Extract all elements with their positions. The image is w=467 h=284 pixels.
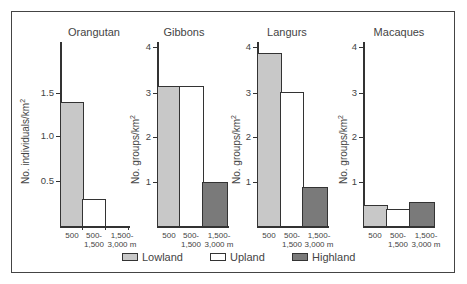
y-axis: [363, 42, 365, 228]
x-tick: [128, 226, 129, 230]
y-tick: [359, 47, 364, 48]
bar-lowland: [257, 53, 282, 227]
panel-title: Orangutan: [44, 26, 144, 38]
bar-upland: [179, 86, 204, 227]
y-tick: [56, 93, 61, 94]
bar-upland: [82, 199, 106, 227]
legend-label: Upland: [230, 251, 265, 263]
legend: Lowland Upland Highland: [120, 251, 360, 267]
y-tick-label: 4: [129, 41, 151, 52]
x-tick-label-line: 3,000 m: [104, 240, 140, 249]
y-tick-label: 1.5: [32, 87, 54, 98]
x-tick-label: 1,500-3,000 m: [408, 231, 444, 249]
y-tick-label: 3: [129, 87, 151, 98]
x-tick-label-line: 1,500-: [408, 231, 444, 240]
y-tick-label: 4: [229, 41, 251, 52]
bar-lowland: [157, 86, 181, 227]
y-axis-label-sup: 2: [337, 115, 344, 119]
y-tick-label: 3: [335, 87, 357, 98]
x-tick-label-line: 1,500-: [104, 231, 140, 240]
y-tick-label: 3: [229, 87, 251, 98]
y-tick: [253, 47, 258, 48]
bar-upland: [386, 209, 411, 227]
legend-item-upland: Upland: [210, 251, 265, 263]
x-tick-label: 1,500-3,000 m: [301, 231, 337, 249]
y-tick-label: 1: [229, 176, 251, 187]
y-axis-label: No. individuals/km2: [19, 99, 31, 184]
y-tick: [359, 182, 364, 183]
bar-lowland: [60, 102, 84, 227]
x-tick-label: 1,500-3,000 m: [201, 231, 237, 249]
y-axis-label-sup: 2: [129, 115, 136, 119]
panel-title: Gibbons: [134, 26, 234, 38]
legend-swatch-highland: [292, 253, 308, 261]
x-tick: [105, 226, 106, 230]
x-tick-label: 500: [364, 231, 386, 240]
bar-upland: [280, 92, 304, 227]
x-tick-label-line: 1,500-: [201, 231, 237, 240]
y-tick-label: 2: [229, 131, 251, 142]
y-axis-label-text: No. groups/km: [231, 119, 242, 184]
y-tick: [359, 93, 364, 94]
x-tick-label-line: 3,000 m: [408, 240, 444, 249]
y-axis-label-sup: 2: [19, 99, 26, 103]
y-tick-label: 1: [129, 176, 151, 187]
bar-highland: [409, 202, 435, 227]
y-axis-label-sup: 2: [230, 115, 237, 119]
y-tick-label: 0.5: [32, 175, 54, 186]
legend-swatch-upland: [210, 253, 226, 261]
bar-highland: [202, 182, 228, 227]
y-axis-label: No. groups/km2: [337, 115, 349, 184]
bar-lowland: [363, 205, 388, 227]
y-tick: [359, 137, 364, 138]
bar-highland: [302, 187, 328, 227]
legend-label: Highland: [312, 251, 355, 263]
y-tick: [153, 47, 158, 48]
y-tick-label: 4: [335, 41, 357, 52]
y-axis-label-text: No. groups/km: [130, 119, 141, 184]
x-tick: [82, 226, 83, 230]
legend-item-highland: Highland: [292, 251, 355, 263]
x-tick-label: 1,500-3,000 m: [104, 231, 140, 249]
x-tick-label-line: 3,000 m: [201, 240, 237, 249]
legend-label: Lowland: [142, 251, 183, 263]
y-axis-label-text: No. individuals/km: [20, 103, 31, 184]
y-tick-label: 2: [335, 131, 357, 142]
y-axis-label: No. groups/km2: [230, 115, 242, 184]
y-tick-label: 1: [335, 176, 357, 187]
x-tick-label: 500: [158, 231, 180, 240]
y-tick-label: 1.0: [32, 130, 54, 141]
x-tick-label: 500: [61, 231, 83, 240]
x-tick-label-line: 3,000 m: [301, 240, 337, 249]
panel-title: Langurs: [237, 26, 337, 38]
panel-title: Macaques: [349, 26, 449, 38]
x-tick-label-line: 1,500-: [301, 231, 337, 240]
legend-swatch-lowland: [122, 253, 138, 261]
y-axis-label-text: No. groups/km: [338, 119, 349, 184]
y-tick-label: 2: [129, 131, 151, 142]
y-axis-label: No. groups/km2: [129, 115, 141, 184]
x-tick-label: 500: [258, 231, 280, 240]
legend-item-lowland: Lowland: [122, 251, 183, 263]
